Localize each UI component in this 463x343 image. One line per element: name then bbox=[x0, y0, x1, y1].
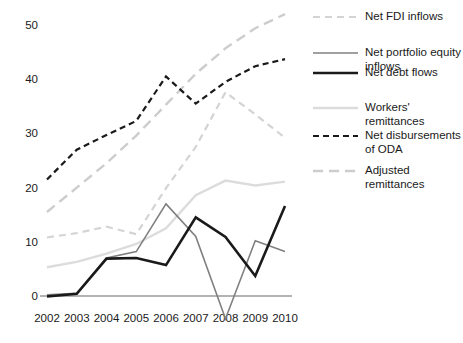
x-tick-label: 2007 bbox=[183, 312, 209, 324]
y-tick-label: 10 bbox=[25, 236, 38, 248]
legend-swatch-icon bbox=[313, 129, 358, 143]
x-tick-label: 2010 bbox=[272, 312, 298, 324]
x-tick-label: 2003 bbox=[64, 312, 90, 324]
data-series-group bbox=[47, 14, 285, 319]
y-axis-tick-labels: 01020304050 bbox=[25, 19, 38, 302]
legend-swatch-icon bbox=[313, 101, 358, 115]
legend-swatch-icon bbox=[313, 66, 358, 80]
x-tick-label: 2009 bbox=[242, 312, 268, 324]
legend-label: Net disbursements of ODA bbox=[365, 129, 463, 156]
series-line bbox=[47, 92, 285, 237]
x-tick-label: 2002 bbox=[34, 312, 60, 324]
legend-item[interactable]: Net disbursements of ODA bbox=[313, 129, 463, 156]
y-tick-label: 30 bbox=[25, 127, 38, 139]
x-tick-label: 2006 bbox=[153, 312, 179, 324]
chart-legend: Net FDI inflowsNet portfolio equity infl… bbox=[313, 0, 463, 343]
x-axis-tick-labels: 200220032004200520062007200820092010 bbox=[34, 312, 298, 324]
chart-svg: 01020304050 2002200320042005200620072008… bbox=[0, 0, 312, 343]
y-tick-label: 40 bbox=[25, 73, 38, 85]
legend-item[interactable]: Workers' remittances bbox=[313, 101, 463, 128]
legend-swatch-icon bbox=[313, 164, 358, 178]
series-line bbox=[47, 59, 285, 179]
legend-item[interactable]: Adjusted remittances bbox=[313, 164, 463, 191]
y-tick-label: 0 bbox=[32, 290, 38, 302]
legend-item[interactable]: Net debt flows bbox=[313, 66, 438, 80]
x-tick-label: 2004 bbox=[94, 312, 120, 324]
y-tick-label: 20 bbox=[25, 182, 38, 194]
legend-item[interactable]: Net FDI inflows bbox=[313, 10, 443, 24]
legend-label: Net debt flows bbox=[365, 66, 438, 80]
x-tick-label: 2005 bbox=[123, 312, 149, 324]
plot-area: 01020304050 2002200320042005200620072008… bbox=[0, 0, 312, 343]
series-line bbox=[47, 206, 285, 297]
legend-label: Adjusted remittances bbox=[365, 164, 463, 191]
line-chart: 01020304050 2002200320042005200620072008… bbox=[0, 0, 463, 343]
legend-label: Workers' remittances bbox=[365, 101, 463, 128]
y-tick-label: 50 bbox=[25, 19, 38, 31]
legend-label: Net FDI inflows bbox=[365, 10, 443, 24]
legend-swatch-icon bbox=[313, 10, 358, 24]
series-line bbox=[47, 14, 285, 212]
legend-swatch-icon bbox=[313, 46, 358, 60]
